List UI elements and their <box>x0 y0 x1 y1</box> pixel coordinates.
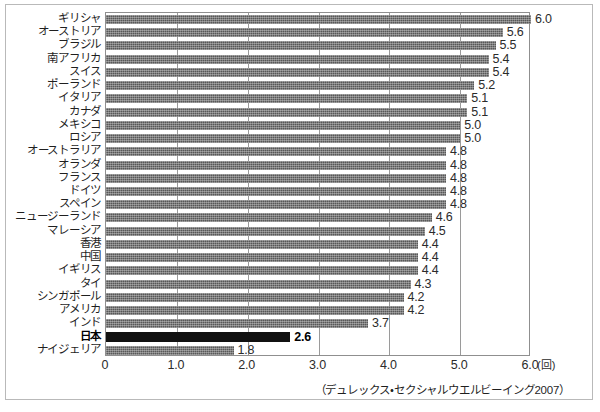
category-label: ドイツ <box>69 184 101 198</box>
bar <box>106 147 446 156</box>
bar-value-label: 5.2 <box>478 78 495 92</box>
bar <box>106 253 418 262</box>
bar <box>106 346 234 355</box>
category-label: カナダ <box>69 105 101 119</box>
bar <box>106 41 496 50</box>
bar-row: 5.4 <box>106 66 529 80</box>
category-label: ナイジェリア <box>37 343 101 357</box>
x-tick-label: 5.0 <box>451 357 468 373</box>
x-tick-label: 4.0 <box>380 357 397 373</box>
x-tick-label: 2.0 <box>238 357 255 373</box>
bar <box>106 213 432 222</box>
bar <box>106 68 489 77</box>
bar-row: 4.3 <box>106 278 529 292</box>
bar-value-label: 5.6 <box>507 25 524 39</box>
category-label: オーストリア <box>38 25 101 39</box>
bar-chart: ギリシャオーストリアブラジル南アフリカスイスポーランドイタリアカナダメキシコロシ… <box>0 0 600 412</box>
category-label: ブラジル <box>58 38 101 52</box>
bar-value-label: 5.1 <box>471 91 488 105</box>
bar-row: 4.4 <box>106 251 529 265</box>
bar-row: 2.6 <box>106 331 529 345</box>
bar-value-label: 4.8 <box>450 197 467 211</box>
category-axis-labels: ギリシャオーストリアブラジル南アフリカスイスポーランドイタリアカナダメキシコロシ… <box>0 12 101 356</box>
bar <box>106 121 460 130</box>
bar-value-label: 4.8 <box>450 171 467 185</box>
bar <box>106 332 290 342</box>
bar-value-label: 6.0 <box>535 12 552 26</box>
bar-value-label: 4.8 <box>450 144 467 158</box>
category-label: 香港 <box>80 237 101 251</box>
x-tick-label: 6.0 <box>522 357 539 373</box>
bar <box>106 55 489 64</box>
bar-row: 5.1 <box>106 92 529 106</box>
bar <box>106 280 411 289</box>
category-label: ロシア <box>69 131 101 145</box>
bar <box>106 240 418 249</box>
bar-rows: 6.05.65.55.45.45.25.15.15.05.04.84.84.84… <box>106 13 529 355</box>
bar <box>106 174 446 183</box>
bar-row: 6.0 <box>106 13 529 27</box>
bar-value-label: 4.5 <box>429 224 446 238</box>
bar <box>106 161 446 170</box>
bar-value-label: 4.8 <box>450 184 467 198</box>
bar-row: 4.6 <box>106 211 529 225</box>
bar-value-label: 4.3 <box>415 277 432 291</box>
bar-value-label: 4.4 <box>422 250 439 264</box>
bar <box>106 81 474 90</box>
bar <box>106 227 425 236</box>
category-label: アメリカ <box>59 303 101 317</box>
category-label: ギリシャ <box>58 12 101 26</box>
category-label: タイ <box>80 277 101 291</box>
x-axis-unit-label: (回) <box>537 357 555 373</box>
bar <box>106 293 404 302</box>
bar-row: 4.4 <box>106 264 529 278</box>
category-label: 中国 <box>80 250 101 264</box>
plot-area: 6.05.65.55.45.45.25.15.15.05.04.84.84.84… <box>105 12 530 356</box>
bar-row: 5.4 <box>106 53 529 67</box>
x-tick-label: 1.0 <box>167 357 184 373</box>
category-label: マレーシア <box>47 224 101 238</box>
bar-value-label: 4.6 <box>436 210 453 224</box>
bar-value-label: 4.4 <box>422 263 439 277</box>
bar-row: 4.5 <box>106 225 529 239</box>
category-label: フランス <box>58 171 101 185</box>
category-label: イギリス <box>58 263 101 277</box>
bar-value-label: 4.2 <box>408 290 425 304</box>
category-label: ニュージーランド <box>15 210 101 224</box>
category-label: シンガポール <box>37 290 101 304</box>
bar-value-label: 4.8 <box>450 158 467 172</box>
bar-row: 3.7 <box>106 317 529 331</box>
category-label: オーストラリア <box>27 144 101 158</box>
bar <box>106 94 467 103</box>
category-label: 南アフリカ <box>47 52 101 66</box>
bar-row: 4.2 <box>106 304 529 318</box>
bar <box>106 28 503 37</box>
bar <box>106 319 368 328</box>
x-tick-label: 3.0 <box>309 357 326 373</box>
bar-value-label: 5.4 <box>493 52 510 66</box>
category-label: イタリア <box>58 91 101 105</box>
bar-row: 5.2 <box>106 79 529 93</box>
category-label: スイス <box>69 65 101 79</box>
x-tick-label: 0 <box>102 357 109 373</box>
bar-value-label: 5.1 <box>471 105 488 119</box>
bar <box>106 15 531 24</box>
category-label: メキシコ <box>58 118 101 132</box>
bar <box>106 134 460 143</box>
bar-value-label: 4.4 <box>422 237 439 251</box>
bar-value-label: 4.2 <box>408 303 425 317</box>
bar-value-label: 5.4 <box>493 65 510 79</box>
bar-row: 5.6 <box>106 26 529 40</box>
bar <box>106 306 404 315</box>
bar-value-label: 5.0 <box>464 131 481 145</box>
bar-row: 5.5 <box>106 39 529 53</box>
source-note: （デュレックス・セクシャルウエルビーイング2007） <box>0 381 588 397</box>
bar <box>106 266 418 275</box>
bar <box>106 108 467 117</box>
category-label: ポーランド <box>47 78 101 92</box>
category-label: インド <box>69 316 101 330</box>
bar <box>106 187 446 196</box>
bar-value-label: 5.5 <box>500 38 517 52</box>
x-axis-ticks: 01.02.03.04.05.06.0 <box>105 357 530 377</box>
bar-row: 4.4 <box>106 238 529 252</box>
